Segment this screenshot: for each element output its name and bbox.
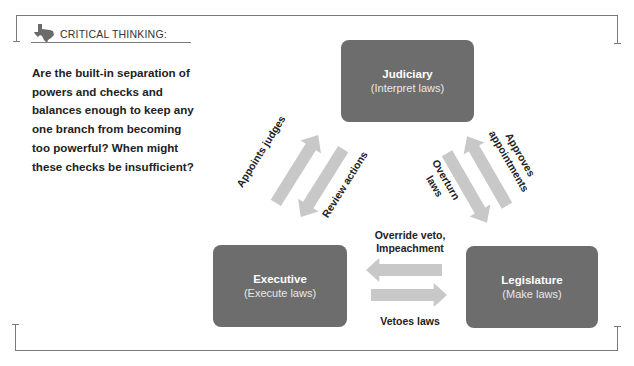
legislature-role: (Make laws) bbox=[502, 287, 561, 301]
arrow-override-veto bbox=[366, 258, 442, 282]
override-line-1: Override veto, bbox=[375, 229, 446, 241]
executive-name: Executive bbox=[253, 272, 307, 286]
legislature-box: Legislature (Make laws) bbox=[466, 246, 598, 328]
judiciary-box: Judiciary (Interpret laws) bbox=[341, 40, 474, 122]
judiciary-name: Judiciary bbox=[382, 67, 433, 81]
legislature-name: Legislature bbox=[501, 273, 562, 287]
label-vetoes-laws: Vetoes laws bbox=[370, 315, 450, 328]
label-override-veto: Override veto, Impeachment bbox=[370, 229, 450, 255]
executive-box: Executive (Execute laws) bbox=[213, 245, 347, 327]
override-line-2: Impeachment bbox=[376, 242, 444, 254]
executive-role: (Execute laws) bbox=[244, 286, 316, 300]
judiciary-role: (Interpret laws) bbox=[371, 81, 444, 95]
arrow-vetoes-laws bbox=[371, 283, 447, 307]
